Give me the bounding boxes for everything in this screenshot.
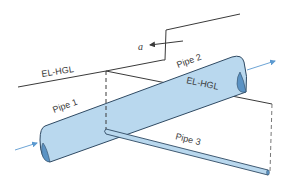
pipe-junction-diagram: a EL-HGL Pipe 1 Pipe 2 EL-HGL Pipe 3 <box>0 0 287 188</box>
outflow-arrow <box>247 61 275 70</box>
pipe3-end-dashed-line <box>270 104 272 172</box>
inflow-arrow <box>15 143 37 150</box>
el-hgl-upper-label: EL-HGL <box>41 64 75 79</box>
pipe1-label: Pipe 1 <box>51 97 78 115</box>
pipe2-label: Pipe 2 <box>175 52 202 70</box>
pipe3-end-cap <box>267 170 270 175</box>
pipe3-label: Pipe 3 <box>175 131 202 147</box>
a-arrow <box>150 41 183 45</box>
a-label: a <box>138 41 143 52</box>
